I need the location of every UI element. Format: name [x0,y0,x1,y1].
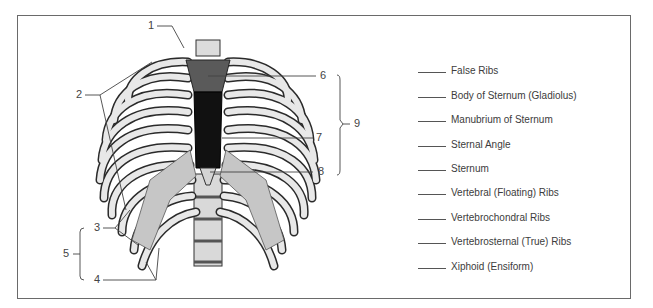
answer-text: Manubrium of Sternum [451,115,553,125]
callout-2: 2 [76,89,82,100]
answer-text: Sternal Angle [451,140,511,150]
upper-vertebra [196,40,220,56]
answer-text: Vertebrochondral Ribs [451,213,550,223]
answer-item: False Ribs [418,52,577,76]
callout-1: 1 [148,20,154,31]
answer-item: Xiphoid (Ensiform) [418,247,577,271]
answer-item: Body of Sternum (Gladiolus) [418,76,577,100]
answer-blank[interactable] [418,72,446,73]
callout-8: 8 [318,166,324,177]
sternum-body [194,92,222,168]
answer-blank[interactable] [418,170,446,171]
callout-7: 7 [316,132,322,143]
answer-item: Vertebrochondral Ribs [418,198,577,222]
answer-blank[interactable] [418,243,446,244]
answer-blank[interactable] [418,268,446,269]
callout-6: 6 [320,70,326,81]
answer-text: Vertebrosternal (True) Ribs [451,237,571,247]
answer-text: Xiphoid (Ensiform) [451,262,533,272]
callout-9: 9 [354,118,360,129]
answer-text: False Ribs [451,66,498,76]
answer-item: Sternal Angle [418,125,577,149]
answer-blank[interactable] [418,146,446,147]
vertebral-column [194,174,222,266]
answer-text: Vertebral (Floating) Ribs [451,188,559,198]
answer-blank[interactable] [418,194,446,195]
answer-item: Vertebral (Floating) Ribs [418,174,577,198]
answer-item: Sternum [418,150,577,174]
answer-list: False Ribs Body of Sternum (Gladiolus) M… [418,52,577,272]
answer-blank[interactable] [418,219,446,220]
answer-item: Manubrium of Sternum [418,101,577,125]
callout-3: 3 [94,222,100,233]
answer-text: Body of Sternum (Gladiolus) [451,91,577,101]
answer-blank[interactable] [418,97,446,98]
answer-blank[interactable] [418,121,446,122]
callout-4: 4 [94,274,100,285]
answer-item: Vertebrosternal (True) Ribs [418,223,577,247]
answer-text: Sternum [451,164,489,174]
callout-5: 5 [63,248,69,259]
